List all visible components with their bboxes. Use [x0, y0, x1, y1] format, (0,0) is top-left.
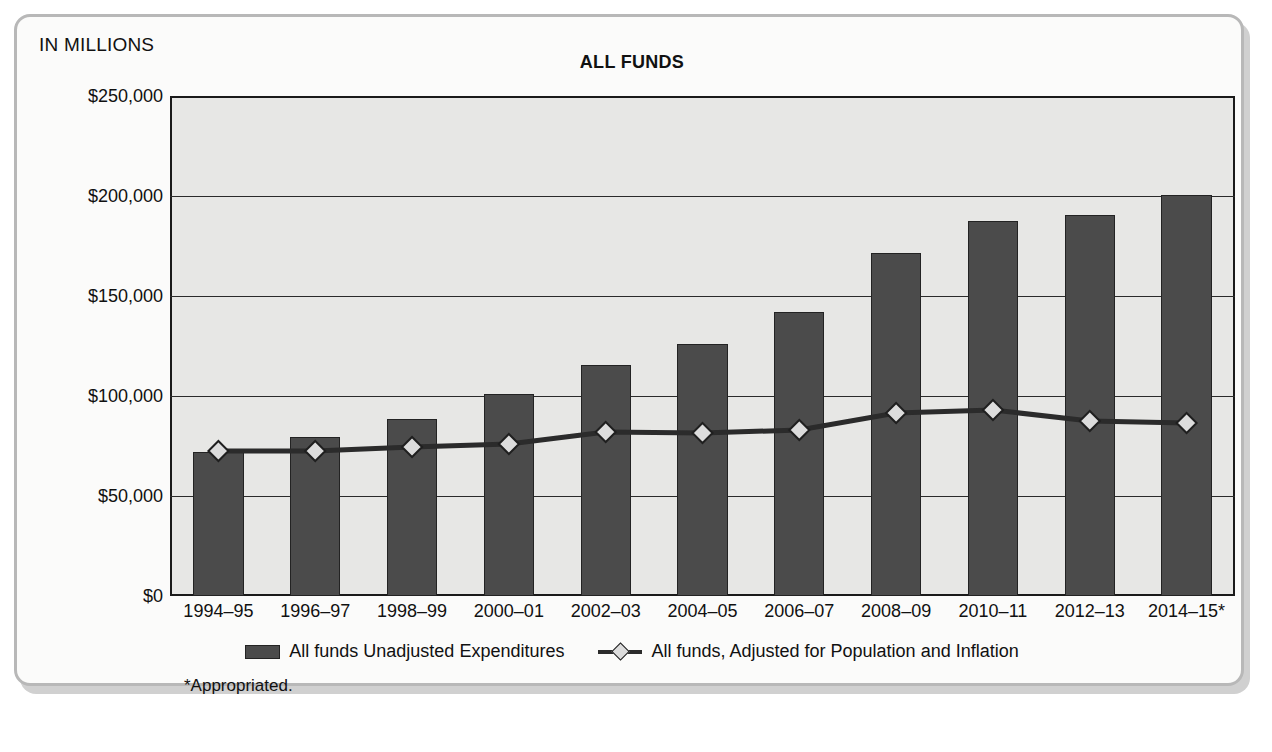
y-axis-tick-label: $200,000	[88, 186, 163, 207]
legend-label-bar: All funds Unadjusted Expenditures	[289, 641, 564, 662]
diamond-marker-icon	[789, 420, 809, 440]
x-axis-tick-label: 2000–01	[474, 601, 544, 622]
footnote: *Appropriated.	[184, 676, 293, 696]
x-axis-tick-label: 1998–99	[377, 601, 447, 622]
figure-card: IN MILLIONS ALL FUNDS $0$50,000$100,000$…	[14, 14, 1244, 686]
diamond-marker-icon	[208, 441, 228, 461]
x-axis-tick-label: 2012–13	[1055, 601, 1125, 622]
line-series-all-funds-adjusted-for-population-and-inflation	[170, 96, 1235, 596]
diamond-marker-icon	[402, 437, 422, 457]
y-axis-tick-label: $100,000	[88, 386, 163, 407]
diamond-marker-icon	[596, 422, 616, 442]
diamond-marker-icon	[1177, 413, 1197, 433]
diamond-marker-icon	[886, 403, 906, 423]
line-diamond-swatch-icon	[598, 643, 642, 661]
diamond-marker-icon	[983, 400, 1003, 420]
y-axis-tick-label: $250,000	[88, 86, 163, 107]
diamond-marker-icon	[499, 434, 519, 454]
plot-area-wrapper	[170, 96, 1235, 596]
y-axis-tick-labels: $0$50,000$100,000$150,000$200,000$250,00…	[37, 96, 163, 596]
x-axis-tick-label: 2010–11	[959, 601, 1028, 622]
legend-item-bar: All funds Unadjusted Expenditures	[245, 641, 564, 662]
legend-label-line: All funds, Adjusted for Population and I…	[651, 641, 1018, 662]
diamond-marker-icon	[305, 441, 325, 461]
x-axis-tick-label: 2004–05	[667, 601, 737, 622]
y-axis-tick-label: $150,000	[88, 286, 163, 307]
diamond-marker-icon	[1080, 411, 1100, 431]
x-axis-tick-labels: 1994–951996–971998–992000–012002–032004–…	[170, 601, 1235, 631]
legend-item-line: All funds, Adjusted for Population and I…	[598, 641, 1018, 662]
x-axis-tick-label: 2008–09	[861, 601, 931, 622]
x-axis-tick-label: 2002–03	[571, 601, 641, 622]
y-axis-tick-label: $50,000	[98, 486, 163, 507]
chart-legend: All funds Unadjusted Expenditures All fu…	[17, 641, 1247, 662]
x-axis-tick-label: 1994–95	[183, 601, 253, 622]
x-axis-tick-label: 1996–97	[280, 601, 350, 622]
legend-diamond-marker-icon	[611, 642, 629, 660]
x-axis-tick-label: 2014–15*	[1148, 601, 1225, 622]
bar-swatch-icon	[245, 645, 280, 659]
chart-title: ALL FUNDS	[17, 52, 1247, 73]
y-axis-tick-label: $0	[143, 586, 163, 607]
x-axis-tick-label: 2006–07	[764, 601, 834, 622]
diamond-marker-icon	[693, 423, 713, 443]
